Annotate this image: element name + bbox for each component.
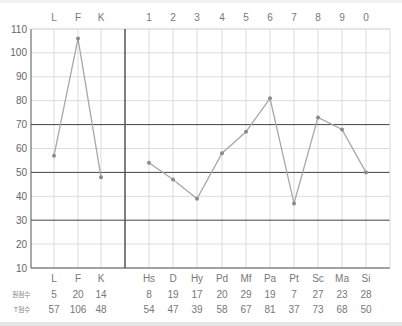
- table-cell: 47: [167, 304, 179, 315]
- data-point: [364, 170, 368, 174]
- table-row-label: 원점수: [12, 290, 31, 299]
- top-scale-label: 1: [146, 12, 152, 23]
- table-cell: 23: [336, 289, 348, 300]
- y-tick-label: 50: [16, 167, 28, 178]
- y-tick-label: 110: [11, 24, 27, 35]
- table-cell: 19: [264, 289, 276, 300]
- table-row-label: T점수: [13, 306, 31, 314]
- data-point: [316, 115, 320, 119]
- data-point: [195, 197, 199, 201]
- data-point: [244, 130, 248, 134]
- data-point: [171, 178, 175, 182]
- table-cell: 29: [240, 289, 252, 300]
- table-cell: 7: [291, 289, 297, 300]
- top-scale-label: 8: [315, 12, 321, 23]
- category-label: L: [51, 273, 57, 284]
- table-cell: 19: [167, 289, 179, 300]
- category-label: Sc: [312, 273, 324, 284]
- top-scale-label: K: [98, 12, 105, 23]
- table-cell: 48: [95, 304, 107, 315]
- table-cell: 106: [70, 304, 87, 315]
- data-point: [220, 151, 224, 155]
- y-tick-label: 10: [16, 263, 28, 274]
- y-tick-label: 70: [16, 119, 28, 130]
- table-cell: 58: [216, 304, 228, 315]
- y-tick-label: 20: [16, 239, 28, 250]
- table-cell: 14: [95, 289, 107, 300]
- category-label: K: [98, 273, 105, 284]
- data-point: [340, 127, 344, 131]
- table-cell: 17: [191, 289, 203, 300]
- table-cell: 39: [191, 304, 203, 315]
- table-cell: 28: [360, 289, 372, 300]
- table-cell: 68: [336, 304, 348, 315]
- clinical-line: [149, 98, 366, 203]
- category-label: Si: [362, 273, 371, 284]
- mmpi-profile-chart: 102030405060708090100110LFK1234567890LFK…: [0, 0, 402, 326]
- table-cell: 20: [72, 289, 84, 300]
- table-cell: 37: [288, 304, 300, 315]
- table-cell: 54: [143, 304, 155, 315]
- top-scale-label: F: [75, 12, 81, 23]
- y-tick-label: 30: [16, 215, 28, 226]
- table-cell: 67: [240, 304, 252, 315]
- y-tick-label: 40: [16, 191, 28, 202]
- category-label: Pd: [216, 273, 228, 284]
- y-tick-label: 90: [16, 71, 28, 82]
- data-point: [76, 37, 80, 41]
- category-label: Hy: [191, 273, 203, 284]
- category-label: Mf: [240, 273, 251, 284]
- table-cell: 20: [216, 289, 228, 300]
- table-cell: 8: [146, 289, 152, 300]
- top-scale-label: 6: [267, 12, 273, 23]
- category-label: F: [75, 273, 81, 284]
- top-scale-label: 9: [339, 12, 345, 23]
- y-tick-label: 100: [10, 47, 27, 58]
- table-cell: 50: [360, 304, 372, 315]
- top-scale-label: 4: [219, 12, 225, 23]
- data-point: [292, 201, 296, 205]
- top-scale-label: L: [51, 12, 57, 23]
- category-label: Pa: [264, 273, 277, 284]
- category-label: D: [169, 273, 176, 284]
- category-label: Pt: [289, 273, 299, 284]
- top-scale-label: 5: [243, 12, 249, 23]
- table-cell: 5: [51, 289, 57, 300]
- table-cell: 81: [264, 304, 276, 315]
- table-cell: 73: [312, 304, 324, 315]
- data-point: [99, 175, 103, 179]
- category-label: Hs: [143, 273, 155, 284]
- table-cell: 57: [48, 304, 60, 315]
- category-label: Ma: [335, 273, 349, 284]
- top-scale-label: 7: [291, 12, 297, 23]
- data-point: [52, 154, 56, 158]
- top-scale-label: 0: [363, 12, 369, 23]
- table-cell: 27: [312, 289, 324, 300]
- top-scale-label: 3: [194, 12, 200, 23]
- data-point: [268, 96, 272, 100]
- y-tick-label: 80: [16, 95, 28, 106]
- data-point: [147, 161, 151, 165]
- top-scale-label: 2: [170, 12, 176, 23]
- y-tick-label: 60: [16, 143, 28, 154]
